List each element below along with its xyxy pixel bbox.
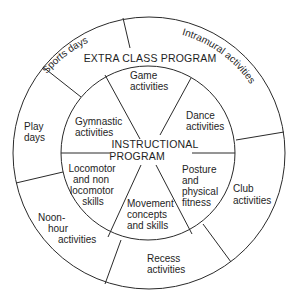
svg-text:and: and: [182, 175, 199, 186]
svg-text:locomotor: locomotor: [70, 185, 115, 196]
play-days-label: Play days: [24, 121, 45, 143]
svg-text:fitness: fitness: [182, 197, 211, 208]
svg-text:activities: activities: [75, 127, 113, 138]
svg-text:activities: activities: [186, 121, 224, 132]
svg-text:Gymnastic: Gymnastic: [75, 116, 122, 127]
noon-hour-activities-label: Noon- hour activities: [38, 212, 96, 245]
svg-text:concepts: concepts: [127, 209, 167, 220]
svg-text:Posture: Posture: [182, 164, 217, 175]
game-activities-label: Game activities: [130, 70, 168, 92]
svg-text:Game: Game: [130, 70, 158, 81]
svg-text:and non: and non: [73, 174, 109, 185]
gymnastic-activities-label: Gymnastic activities: [75, 116, 122, 138]
svg-text:activities: activities: [233, 195, 271, 206]
svg-text:hour: hour: [48, 223, 69, 234]
svg-text:Noon-: Noon-: [38, 212, 65, 223]
svg-text:and skills: and skills: [127, 220, 168, 231]
svg-text:physical: physical: [182, 186, 218, 197]
club-activities-label: Club activities: [233, 183, 271, 206]
svg-text:activities: activities: [58, 234, 96, 245]
instructional-program-title-line1: INSTRUCTIONAL: [111, 138, 198, 150]
svg-text:Play: Play: [24, 121, 43, 132]
posture-and-physical-fitness-label: Posture and physical fitness: [182, 164, 218, 208]
movement-concepts-and-skills-label: Movement concepts and skills: [127, 198, 174, 231]
svg-text:Recess: Recess: [147, 253, 180, 264]
program-diagram: EXTRA CLASS PROGRAM Sports days Intramur…: [0, 0, 297, 300]
extra-class-program-title: EXTRA CLASS PROGRAM: [84, 52, 217, 64]
svg-text:Club: Club: [233, 183, 254, 194]
sports-days-label: Sports days: [40, 34, 89, 75]
svg-text:days: days: [24, 132, 45, 143]
svg-text:Dance: Dance: [186, 110, 215, 121]
svg-text:Movement: Movement: [127, 198, 174, 209]
svg-text:activities: activities: [147, 264, 185, 275]
svg-text:Locomotor: Locomotor: [68, 163, 116, 174]
dance-activities-label: Dance activities: [186, 110, 224, 132]
recess-activities-label: Recess activities: [147, 253, 185, 275]
instructional-program-title-line2: PROGRAM: [109, 150, 165, 162]
svg-text:skills: skills: [82, 196, 104, 207]
svg-text:activities: activities: [130, 81, 168, 92]
